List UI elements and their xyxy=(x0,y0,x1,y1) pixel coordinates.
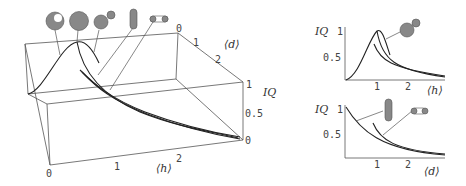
tick-z-1: 1 xyxy=(246,79,252,90)
tick-z-05: 0.5 xyxy=(245,108,263,119)
sphere-icon xyxy=(70,12,89,31)
tick: 2 xyxy=(405,81,411,92)
inset-d-xlabel: ⟨d⟩ xyxy=(424,165,440,178)
curve-sphere xyxy=(28,42,99,94)
inset-h-ylabel: IQ xyxy=(314,25,328,38)
inset-plot-d: IQ 1 0.5 1 2 ⟨d⟩ xyxy=(314,99,445,178)
vertical-cylinder-icon xyxy=(130,9,137,29)
tick: 2 xyxy=(405,159,411,170)
vertical-cylinder-icon xyxy=(385,99,392,121)
tick: 1 xyxy=(374,159,380,170)
dumbbell-icon xyxy=(400,23,414,37)
inset-plot-h: IQ 1 0.5 1 2 ⟨h⟩ xyxy=(314,19,445,97)
tick-d-1: 1 xyxy=(193,37,199,48)
main-3d-plot: 0 1 2 ⟨h⟩ 0 1 2 ⟨d⟩ 1 0.5 0 IQ xyxy=(25,9,276,179)
axis-label-iq: IQ xyxy=(262,86,276,99)
hollow-sphere-icon xyxy=(46,12,64,30)
tick: 1 xyxy=(337,26,343,37)
tick-h-2: 2 xyxy=(176,153,182,164)
tick-d-0: 0 xyxy=(176,23,182,34)
curve-main-b xyxy=(80,70,240,137)
tick: 0.5 xyxy=(323,52,341,63)
tick: 0.5 xyxy=(323,129,341,140)
tick-h-1: 1 xyxy=(114,161,120,172)
inset-h-xlabel: ⟨h⟩ xyxy=(427,84,443,97)
tick-d-2: 2 xyxy=(215,54,221,65)
tick-h-0: 0 xyxy=(46,168,52,179)
axis-label-h: ⟨h⟩ xyxy=(156,162,172,175)
dumbbell-icon xyxy=(94,11,115,29)
figure: 0 1 2 ⟨h⟩ 0 1 2 ⟨d⟩ 1 0.5 0 IQ IQ 1 0.5 … xyxy=(0,0,466,186)
tick: 1 xyxy=(374,81,380,92)
inset-d-ylabel: IQ xyxy=(314,103,328,116)
axis-label-d: ⟨d⟩ xyxy=(224,38,240,51)
curve-main-c xyxy=(82,72,240,139)
tick-z-0: 0 xyxy=(245,135,251,146)
tick: 1 xyxy=(337,104,343,115)
horizontal-cylinder-icon xyxy=(150,16,168,22)
